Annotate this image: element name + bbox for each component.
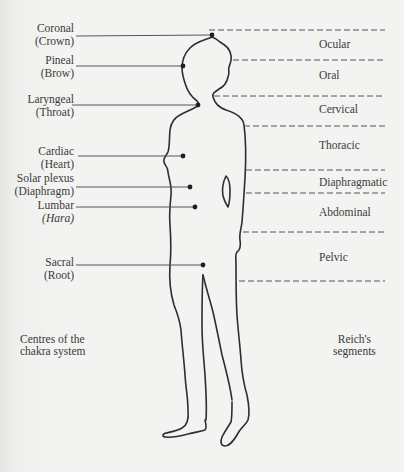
dot-laryngeal — [196, 103, 201, 108]
chakra-alt-name: (Crown) — [35, 35, 74, 48]
dot-lumbar — [193, 205, 198, 210]
segment-label-diaphragmatic: Diaphragmatic — [319, 176, 387, 189]
chakra-dots — [181, 33, 215, 268]
chakra-name: Laryngeal — [27, 93, 74, 106]
chakra-name: Cardiac — [38, 145, 74, 158]
chakra-name: Coronal — [35, 22, 74, 35]
body-right-contour — [212, 37, 249, 446]
caption-line: Centres of the — [20, 333, 85, 345]
caption-reich-segments: Reich's segments — [333, 333, 376, 357]
caption-line: chakra system — [20, 345, 85, 357]
segment-label-thoracic: Thoracic — [319, 139, 360, 152]
hand-shape — [223, 176, 230, 207]
chakra-label-cardiac: Cardiac (Heart) — [38, 145, 74, 171]
chakra-label-sacral: Sacral (Root) — [44, 256, 74, 282]
segment-label-cervical: Cervical — [319, 103, 358, 116]
chakra-label-lumbar: Lumbar (Hara) — [38, 199, 74, 225]
chakra-name: Solar plexus — [15, 172, 74, 185]
segment-label-oral: Oral — [319, 69, 339, 82]
caption-line: segments — [333, 345, 376, 357]
caption-line: Reich's — [333, 333, 376, 345]
chakra-alt-name: (Hara) — [38, 212, 74, 225]
body-outline — [163, 37, 249, 446]
dot-pineal — [181, 64, 186, 69]
chakra-alt-name: (Heart) — [38, 158, 74, 171]
segment-label-ocular: Ocular — [319, 38, 350, 51]
dot-cardiac — [181, 154, 186, 159]
chakra-label-laryngeal: Laryngeal (Throat) — [27, 93, 74, 119]
chakra-alt-name: (Diaphragm) — [15, 185, 74, 198]
segment-label-abdominal: Abdominal — [319, 206, 371, 219]
chakra-name: Lumbar — [38, 199, 74, 212]
chakra-alt-name: (Brow) — [41, 67, 74, 80]
chakra-name: Pineal — [41, 54, 74, 67]
chakra-label-pineal: Pineal (Brow) — [41, 54, 74, 80]
segment-label-pelvic: Pelvic — [319, 251, 348, 264]
chakra-label-solar-plexus: Solar plexus (Diaphragm) — [15, 172, 74, 198]
chakra-leader-lines — [72, 35, 212, 265]
chakra-alt-name: (Throat) — [27, 106, 74, 119]
inner-leg-right — [203, 275, 232, 400]
chakra-alt-name: (Root) — [44, 269, 74, 282]
chakra-label-coronal: Coronal (Crown) — [35, 22, 74, 48]
dot-sacral — [201, 263, 206, 268]
inner-leg-left — [202, 275, 206, 420]
dot-coronal — [210, 33, 215, 38]
segment-boundaries — [209, 30, 385, 281]
dot-solar-plexus — [188, 185, 193, 190]
chakra-name: Sacral — [44, 256, 74, 269]
caption-chakra-system: Centres of the chakra system — [20, 333, 85, 357]
